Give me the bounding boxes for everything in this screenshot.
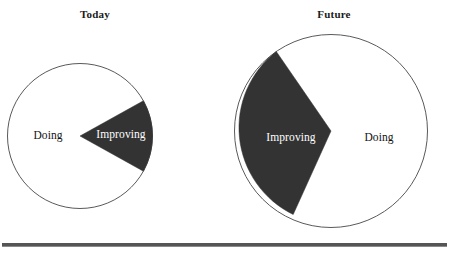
pie-label-today-improving: Improving <box>96 128 145 140</box>
pie-svg-future <box>234 34 428 228</box>
pie-label-today-doing: Doing <box>33 129 62 141</box>
chart-title-future: Future <box>284 8 384 20</box>
footer-divider <box>2 243 447 247</box>
pie-label-future-doing: Doing <box>364 131 393 143</box>
chart-title-today: Today <box>45 8 145 20</box>
figure-container: Today Doing Improving Future Doing Impro… <box>0 0 449 255</box>
pie-label-future-improving: Improving <box>266 131 315 143</box>
